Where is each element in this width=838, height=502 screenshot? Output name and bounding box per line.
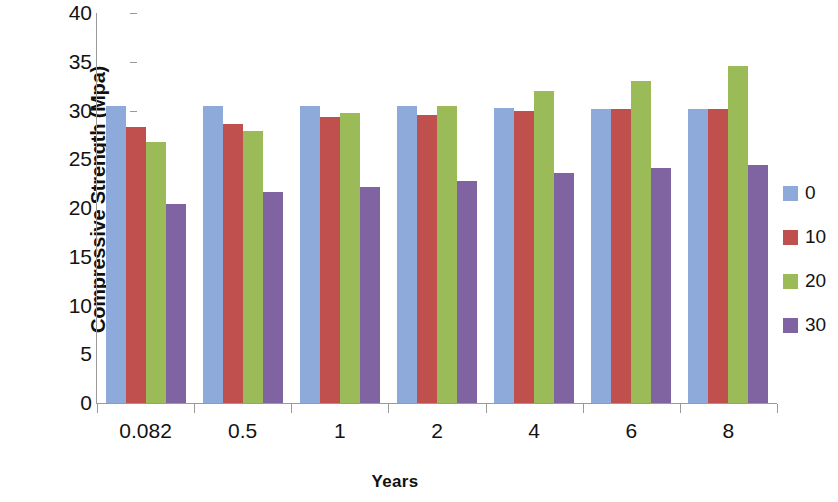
- bar: [748, 165, 768, 403]
- legend: 0102030: [783, 182, 838, 358]
- x-axis-tick-mark: [194, 404, 195, 413]
- bar: [534, 91, 554, 403]
- x-axis-tick-mark: [97, 404, 98, 413]
- bar: [591, 109, 611, 403]
- x-axis-tick-label: 8: [668, 419, 788, 443]
- plot-area: [97, 13, 777, 403]
- legend-label: 0: [805, 181, 816, 205]
- x-axis-title: Years: [0, 472, 790, 492]
- y-axis-tick-label: 0: [40, 392, 92, 413]
- bar-chart: Compressive Strength (Mpa) 4035302520151…: [0, 0, 838, 502]
- x-axis-tick-mark: [486, 404, 487, 413]
- bar: [494, 108, 514, 403]
- bar: [728, 66, 748, 403]
- legend-item: 0: [783, 182, 838, 226]
- bar-group: [688, 13, 768, 403]
- bar: [146, 142, 166, 403]
- y-axis-tick-label: 5: [40, 343, 92, 364]
- x-axis-line: [96, 403, 777, 404]
- legend-item: 30: [783, 314, 838, 358]
- legend-label: 20: [805, 269, 826, 293]
- bar: [611, 109, 631, 403]
- legend-label: 30: [805, 313, 826, 337]
- bar: [437, 106, 457, 403]
- x-axis-tick-mark: [583, 404, 584, 413]
- y-axis-tick-label: 25: [40, 148, 92, 169]
- bar: [554, 173, 574, 403]
- bar: [166, 204, 186, 403]
- bar-group: [591, 13, 671, 403]
- bar-group: [397, 13, 477, 403]
- bar-group: [494, 13, 574, 403]
- y-axis-tick-label: 20: [40, 197, 92, 218]
- legend-swatch-icon: [783, 186, 798, 201]
- bar: [651, 168, 671, 403]
- bar: [203, 106, 223, 403]
- legend-swatch-icon: [783, 274, 798, 289]
- bar: [223, 124, 243, 403]
- bar: [360, 187, 380, 403]
- y-axis-tick-label: 15: [40, 246, 92, 267]
- bar: [320, 117, 340, 403]
- x-axis-tick-mark: [388, 404, 389, 413]
- bar: [106, 106, 126, 403]
- bar-group: [106, 13, 186, 403]
- legend-swatch-icon: [783, 318, 798, 333]
- y-axis-tick-label: 40: [40, 2, 92, 23]
- legend-item: 20: [783, 270, 838, 314]
- bar: [457, 181, 477, 403]
- bar: [300, 106, 320, 403]
- legend-swatch-icon: [783, 230, 798, 245]
- bar: [688, 109, 708, 403]
- bar: [514, 111, 534, 404]
- bar: [417, 115, 437, 403]
- y-axis-tick-label: 10: [40, 295, 92, 316]
- bar: [243, 131, 263, 403]
- bar: [631, 81, 651, 403]
- bar: [126, 127, 146, 403]
- x-axis-tick-mark: [680, 404, 681, 413]
- bar: [263, 192, 283, 403]
- y-axis-tick-label: 35: [40, 51, 92, 72]
- bar: [708, 109, 728, 403]
- legend-label: 10: [805, 225, 826, 249]
- bar-group: [300, 13, 380, 403]
- bar: [340, 113, 360, 403]
- y-axis-tick-label: 30: [40, 100, 92, 121]
- y-axis-tick-labels: 4035302520151050: [40, 0, 92, 502]
- legend-item: 10: [783, 226, 838, 270]
- bar: [397, 106, 417, 403]
- x-axis-tick-mark: [291, 404, 292, 413]
- x-axis-tick-mark: [777, 404, 778, 413]
- bar-group: [203, 13, 283, 403]
